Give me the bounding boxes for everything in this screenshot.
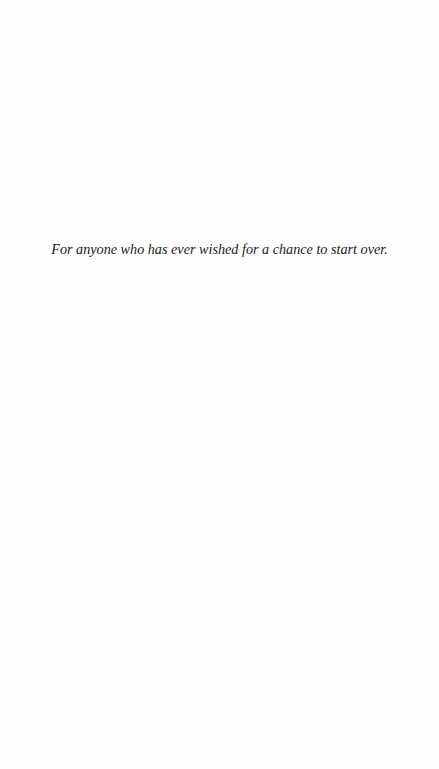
dedication-text: For anyone who has ever wished for a cha… bbox=[0, 240, 439, 258]
book-page: For anyone who has ever wished for a cha… bbox=[0, 0, 439, 769]
